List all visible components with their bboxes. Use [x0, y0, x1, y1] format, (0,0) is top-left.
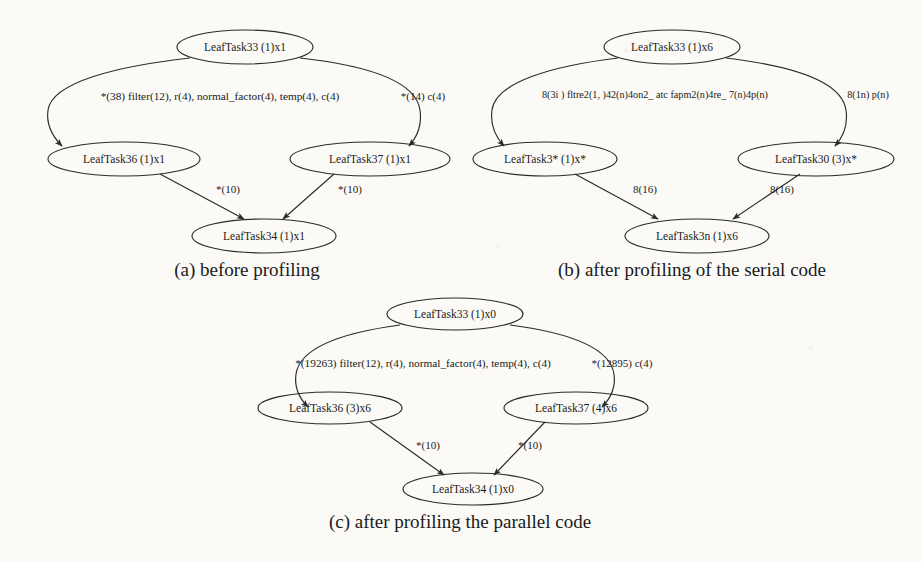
caption-b: (b) after profiling of the serial code — [558, 259, 826, 281]
edge-a-left-bottom — [160, 174, 244, 219]
caption-c: (c) after profiling the parallel code — [329, 511, 591, 533]
edge-b-left-bottom — [575, 174, 658, 219]
node-a-left-label: LeafTask36 (1)x1 — [83, 153, 165, 166]
node-a-bottom-label: LeafTask34 (1)x1 — [223, 230, 305, 243]
caption-a: (a) before profiling — [174, 259, 320, 281]
panel-c: LeafTask33 (1)x0 LeafTask36 (3)x6 LeafTa… — [258, 298, 653, 533]
node-b-root-label: LeafTask33 (1)x6 — [631, 41, 713, 54]
edge-b-right-bottom-label: 8(16) — [770, 183, 794, 196]
edge-a-left-bottom-label: *(10) — [216, 183, 240, 196]
node-c-bottom-label: LeafTask34 (1)x0 — [432, 483, 514, 496]
edge-b-root-right — [726, 58, 847, 146]
node-a-right-label: LeafTask37 (1)x1 — [329, 153, 411, 166]
edge-c-root-right-label: *(12895) c(4) — [592, 357, 653, 370]
node-b-left-label: LeafTask3* (1)x* — [504, 153, 586, 166]
node-b-right-label: LeafTask30 (3)x* — [775, 153, 857, 166]
edge-c-left-bottom-label: *(10) — [416, 439, 440, 452]
edge-c-root-left-label: *(19263) filter(12), r(4), normal_factor… — [295, 357, 551, 370]
node-b-bottom-label: LeafTask3n (1)x6 — [656, 230, 738, 243]
panel-a: LeafTask33 (1)x1 LeafTask36 (1)x1 LeafTa… — [48, 30, 450, 281]
node-c-right-label: LeafTask37 (4)x6 — [535, 402, 617, 415]
node-c-left-label: LeafTask36 (3)x6 — [289, 402, 371, 415]
edge-a-root-right — [300, 58, 421, 146]
edge-a-root-left — [48, 58, 190, 146]
node-a-root-label: LeafTask33 (1)x1 — [204, 41, 286, 54]
edge-b-root-left-label: 8(3i ) fltre2(1, )42(n)4on2_ atc fapm2(n… — [542, 89, 768, 101]
edge-a-root-left-label: *(38) filter(12), r(4), normal_factor(4)… — [101, 90, 340, 103]
edge-a-right-bottom — [283, 174, 334, 219]
panel-b: LeafTask33 (1)x6 LeafTask3* (1)x* LeafTa… — [473, 30, 894, 281]
task-graph-svg: LeafTask33 (1)x1 LeafTask36 (1)x1 LeafTa… — [0, 0, 921, 562]
edge-a-right-bottom-label: *(10) — [338, 183, 362, 196]
edge-c-right-bottom-label: *(10) — [518, 439, 542, 452]
node-c-root-label: LeafTask33 (1)x0 — [414, 308, 496, 321]
edge-b-root-right-label: 8(1n) p(n) — [847, 89, 889, 101]
figure-canvas: LeafTask33 (1)x1 LeafTask36 (1)x1 LeafTa… — [0, 0, 921, 562]
edge-b-right-bottom — [733, 174, 800, 219]
edge-a-root-right-label: *(14) c(4) — [401, 90, 446, 103]
edge-b-root-left — [492, 58, 618, 146]
edge-b-left-bottom-label: 8(16) — [633, 183, 657, 196]
